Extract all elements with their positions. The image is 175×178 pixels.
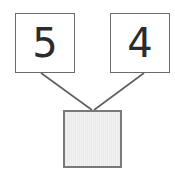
- addend-box-right[interactable]: 4: [110, 13, 170, 73]
- addend-box-left[interactable]: 5: [15, 13, 75, 73]
- connector-line-left: [41, 73, 92, 110]
- number-bond-diagram: 5 4: [0, 0, 175, 178]
- addend-value-right: 4: [127, 23, 152, 63]
- connector-line-right: [94, 73, 144, 110]
- addend-value-left: 5: [32, 23, 57, 63]
- sum-box-empty[interactable]: [63, 110, 122, 168]
